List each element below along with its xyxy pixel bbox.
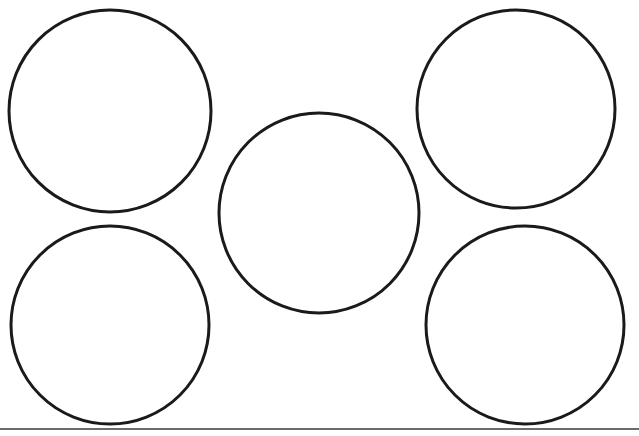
circle-top-left [9, 10, 211, 212]
drawing-canvas [0, 0, 639, 436]
circle-bottom-right [426, 226, 624, 424]
circle-center [219, 113, 419, 313]
circle-top-right [417, 10, 615, 208]
circle-bottom-left [11, 226, 209, 424]
shape-layer [0, 0, 639, 436]
